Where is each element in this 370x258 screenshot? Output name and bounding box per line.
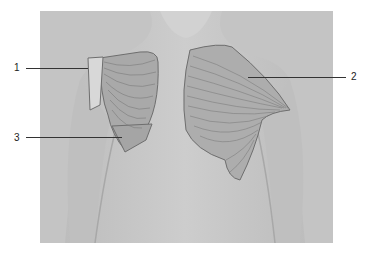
- anatomy-drawing: [40, 11, 333, 243]
- label-3: 3: [14, 133, 20, 143]
- label-2: 2: [351, 72, 357, 82]
- leader-line-2: [248, 77, 346, 78]
- leader-line-1: [26, 68, 88, 69]
- torso-photo: [40, 11, 333, 243]
- label-1: 1: [14, 63, 20, 73]
- leader-line-3: [26, 137, 122, 138]
